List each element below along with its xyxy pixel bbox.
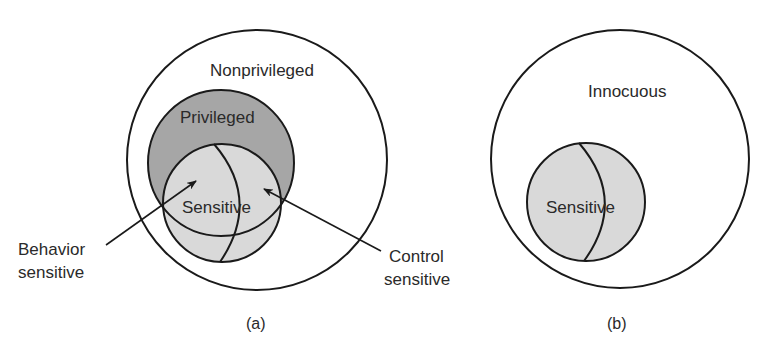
panel-b: Innocuous Sensitive (b) (491, 30, 749, 332)
nonprivileged-label: Nonprivileged (210, 61, 314, 80)
diagram-canvas: Nonprivileged Privileged Sensitive Behav… (0, 0, 762, 349)
behavior-sensitive-label-line2: sensitive (18, 263, 84, 282)
sensitive-label-a: Sensitive (182, 198, 251, 217)
behavior-sensitive-label-line1: Behavior (18, 240, 85, 259)
privileged-label: Privileged (180, 108, 255, 127)
innocuous-label: Innocuous (588, 82, 666, 101)
sensitive-label-b: Sensitive (546, 198, 615, 217)
control-sensitive-label-line1: Control (389, 247, 444, 266)
caption-b: (b) (607, 315, 627, 332)
panel-a: Nonprivileged Privileged Sensitive Behav… (18, 30, 450, 332)
control-sensitive-label-line2: sensitive (384, 270, 450, 289)
caption-a: (a) (246, 315, 266, 332)
